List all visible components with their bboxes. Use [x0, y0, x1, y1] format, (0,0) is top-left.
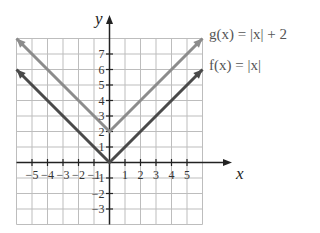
svg-text:6: 6 — [99, 63, 105, 77]
svg-text:2: 2 — [99, 125, 105, 139]
svg-text:1: 1 — [122, 168, 128, 182]
svg-text:−3: −3 — [57, 168, 70, 182]
svg-text:2: 2 — [138, 168, 144, 182]
legend-g: g(x) = |x| + 2 — [209, 26, 287, 43]
svg-text:1: 1 — [99, 140, 105, 154]
y-axis-label: y — [95, 9, 103, 29]
svg-text:−1: −1 — [92, 171, 105, 185]
svg-text:3: 3 — [99, 109, 105, 123]
svg-text:−2: −2 — [72, 168, 85, 182]
svg-text:7: 7 — [99, 47, 105, 61]
svg-text:−4: −4 — [41, 168, 54, 182]
svg-text:−2: −2 — [92, 187, 105, 201]
svg-text:−5: −5 — [26, 168, 39, 182]
svg-text:−3: −3 — [92, 202, 105, 216]
svg-text:3: 3 — [153, 168, 159, 182]
svg-text:5: 5 — [184, 168, 190, 182]
legend-f: f(x) = |x| — [209, 57, 261, 74]
svg-text:4: 4 — [169, 168, 175, 182]
svg-text:5: 5 — [99, 78, 105, 92]
x-axis-label: x — [236, 164, 244, 184]
svg-text:4: 4 — [99, 94, 105, 108]
